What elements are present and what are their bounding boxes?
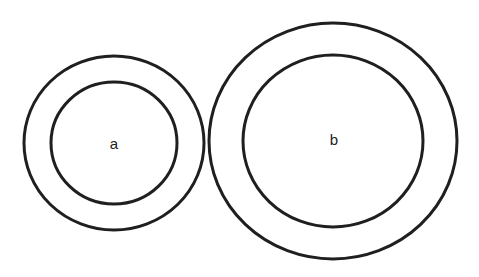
concentric-circles-diagram	[0, 0, 479, 277]
circle-a-label: a	[110, 135, 118, 152]
circle-b-label: b	[330, 131, 338, 148]
